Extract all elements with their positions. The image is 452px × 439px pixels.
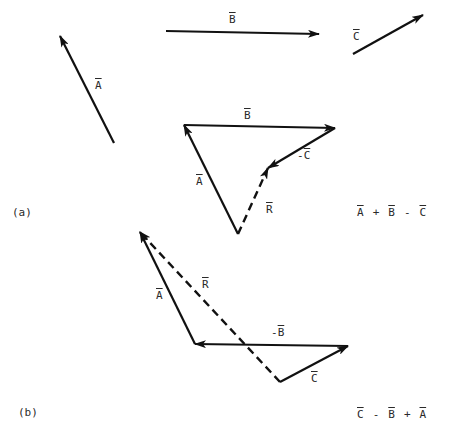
- part-b-label-neg-b: -B: [271, 327, 284, 338]
- minus-sign: -: [297, 149, 304, 162]
- part-b-label-r: R: [202, 279, 209, 290]
- part-a-label-a: A: [196, 176, 203, 187]
- part-a-label-b: B: [244, 110, 251, 121]
- part-a-resultant-r: [238, 168, 268, 234]
- part-a-label-neg-c: -C: [297, 150, 310, 161]
- expr-b-op-1: -: [373, 409, 380, 420]
- part-b-label-neg-b-letter: B: [278, 326, 285, 339]
- part-b-label-c: C: [311, 373, 318, 384]
- expr-a-term-3: C: [420, 207, 427, 218]
- label-a-standalone: A: [95, 80, 102, 91]
- part-a-tag: (a): [12, 207, 32, 218]
- expr-b-term-3: A: [420, 409, 427, 420]
- vector-a-standalone: [60, 36, 114, 143]
- part-a-label-r: R: [266, 204, 273, 215]
- vector-c-standalone: [353, 15, 423, 54]
- vector-diagram-canvas: [0, 0, 452, 439]
- part-a-vector-b: [184, 125, 335, 128]
- expr-b-term-1: C: [357, 409, 364, 420]
- part-b-resultant-r: [140, 232, 280, 382]
- part-a-diagram: [184, 125, 335, 234]
- expr-a-term-1: A: [357, 207, 364, 218]
- expr-a-op-2: -: [404, 207, 411, 218]
- part-b-tag: (b): [18, 407, 38, 418]
- part-a-expression: A+B-C: [357, 207, 435, 218]
- part-a-label-neg-c-letter: C: [304, 149, 311, 162]
- standalone-vectors: [60, 15, 423, 143]
- expr-a-op-1: +: [373, 207, 380, 218]
- expr-a-term-2: B: [388, 207, 395, 218]
- part-b-expression: C-B+A: [357, 409, 435, 420]
- expr-b-op-2: +: [404, 409, 411, 420]
- part-b-label-a: A: [156, 290, 163, 301]
- part-a-vector-neg-c: [268, 128, 335, 168]
- part-b-vector-a: [140, 232, 195, 344]
- part-b-diagram: [140, 232, 348, 382]
- vector-b-standalone: [166, 31, 319, 34]
- part-a-vector-a: [184, 125, 238, 234]
- minus-sign: -: [271, 326, 278, 339]
- label-b-standalone: B: [229, 14, 236, 25]
- part-b-vector-neg-b: [195, 344, 348, 346]
- label-c-standalone: C: [353, 31, 360, 42]
- expr-b-term-2: B: [388, 409, 395, 420]
